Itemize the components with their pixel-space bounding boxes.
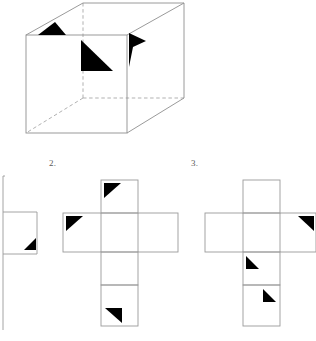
marker-net1-bottom-right-triangle-icon — [24, 238, 36, 250]
net2-square-lower — [101, 252, 138, 285]
marker-net2-top-square-triangle-icon — [104, 183, 121, 198]
puzzle-page: 2. 3. — [0, 0, 316, 341]
marker-net3-bottom-square-triangle-icon — [263, 289, 276, 302]
cube-edge-top-right-diagonal — [127, 3, 184, 35]
net-option-2[interactable] — [63, 180, 178, 326]
marker-top-face-triangle-icon — [38, 22, 66, 35]
cube-edge-back-bottom-left-diagonal — [26, 98, 83, 133]
marker-right-face-triangle-icon — [129, 33, 146, 67]
net-option-1[interactable] — [3, 176, 37, 330]
marker-back-face-triangle-icon — [81, 40, 113, 71]
net3-band — [205, 213, 316, 252]
cube-figure — [26, 3, 184, 133]
marker-net3-right-square-triangle-icon — [298, 216, 314, 231]
net-option-3-outline — [205, 180, 316, 326]
net-option-3[interactable] — [205, 180, 316, 326]
figure-canvas — [0, 0, 316, 341]
marker-net2-bottom-square-triangle-icon — [105, 308, 122, 323]
net-option-2-outline — [63, 180, 178, 326]
option-label-3: 3. — [191, 159, 198, 168]
marker-net2-left-square-triangle-icon — [66, 216, 83, 231]
cube-edge-bottom-right-diagonal — [127, 98, 184, 133]
net3-square-bottom — [243, 285, 280, 326]
net3-square-top — [243, 180, 280, 213]
cube-front-face — [26, 35, 127, 133]
net2-band — [63, 213, 178, 252]
marker-net3-center-lower-triangle-icon — [246, 256, 259, 269]
net-option-1-outline — [3, 176, 37, 330]
option-label-2: 2. — [49, 159, 56, 168]
